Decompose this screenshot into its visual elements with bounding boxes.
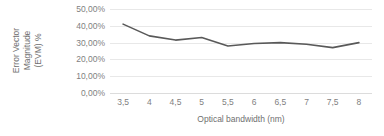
y-axis-title-line-3: (EVM) % — [33, 27, 44, 72]
x-axis-tick-label: 3,5 — [117, 97, 129, 108]
gridline — [110, 93, 372, 94]
y-axis-title-line-2: Magnitude — [22, 27, 33, 72]
x-axis-tick-label: 4 — [147, 97, 152, 108]
y-axis-tick-label: 40,00% — [76, 21, 105, 30]
x-axis-tick-label: 5 — [199, 97, 204, 108]
x-axis-tick-labels: 3,544,555,566,577,58 — [110, 97, 372, 111]
y-axis-tick-label: 50,00% — [76, 5, 105, 14]
x-axis-tick-label: 6 — [252, 97, 257, 108]
x-axis-tick-label: 8 — [357, 97, 362, 108]
x-axis-tick-label: 7 — [304, 97, 309, 108]
series-polyline — [123, 24, 359, 48]
y-axis-tick-labels: 50,00%40,00%30,00%20,00%10,00%0,00% — [56, 9, 108, 93]
series-line-chart — [110, 9, 372, 93]
plot-area — [110, 9, 372, 93]
y-axis-title: Error Vector Magnitude (EVM) % — [0, 0, 56, 100]
chart-figure: Error Vector Magnitude (EVM) % 50,00%40,… — [0, 0, 384, 136]
x-axis-title: Optical bandwidth (nm) — [110, 114, 372, 125]
x-axis-tick-label: 4,5 — [170, 97, 182, 108]
x-axis-tick-label: 6,5 — [274, 97, 286, 108]
y-axis-tick-label: 0,00% — [81, 89, 105, 98]
x-axis-tick-label: 5,5 — [222, 97, 234, 108]
x-axis-tick-label: 7,5 — [327, 97, 339, 108]
y-axis-tick-label: 30,00% — [76, 38, 105, 47]
y-axis-tick-label: 10,00% — [76, 72, 105, 81]
y-axis-title-line-1: Error Vector — [11, 27, 22, 72]
y-axis-tick-label: 20,00% — [76, 55, 105, 64]
